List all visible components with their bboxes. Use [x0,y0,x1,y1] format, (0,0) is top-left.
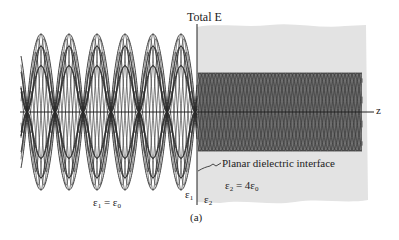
standing-wave-diagram [0,0,399,240]
axis-label-z: z [376,104,381,116]
subscript: 0 [255,185,259,193]
subscript: 1 [190,194,194,202]
equation-text: = 4ε [233,179,255,191]
region2-label: ε2 [204,193,212,207]
subscript: 2 [209,199,213,207]
equation-text: = ε [101,196,117,208]
figure-caption: (a) [190,211,202,223]
region1-permittivity: ε1 = ε0 [93,196,121,210]
region2-permittivity: ε2 = 4ε0 [225,179,258,193]
axis-title-total-e: Total E [187,10,222,25]
interface-label: Planar dielectric interface [222,157,335,169]
region1-label: ε1 [185,188,193,202]
subscript: 0 [117,202,121,210]
